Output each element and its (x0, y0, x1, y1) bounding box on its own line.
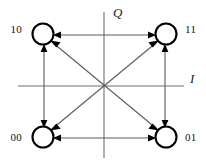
node-11-label: 11 (185, 23, 196, 35)
node-00-label: 00 (10, 131, 22, 143)
q-axis-label: Q (113, 5, 123, 20)
node-01-circle[interactable] (156, 127, 177, 148)
edge-10-01-arrowhead-lower-right (148, 124, 158, 131)
node-01-label: 01 (185, 131, 197, 143)
edge-11-00-arrowhead-lower-left (50, 124, 60, 131)
constellation-svg: 10 11 00 01 Q I (0, 0, 206, 166)
i-axis-label: I (189, 71, 195, 86)
edge-10-01-arrowhead-upper-left (50, 41, 60, 48)
node-10-circle[interactable] (33, 24, 54, 45)
node-11-circle[interactable] (156, 24, 177, 45)
constellation-diagram: 10 11 00 01 Q I (0, 0, 206, 166)
node-10-label: 10 (10, 23, 22, 35)
edge-11-00-arrowhead-upper-right (148, 41, 158, 48)
node-00-circle[interactable] (33, 127, 54, 148)
